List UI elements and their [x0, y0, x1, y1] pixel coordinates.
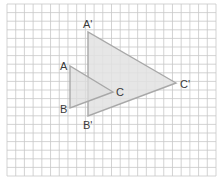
label-c-prime: C' [180, 78, 190, 90]
triangle-a-prime-b-prime-c-prime [88, 32, 176, 116]
label-a: A [60, 60, 68, 72]
label-b-prime: B' [83, 119, 92, 131]
label-a-prime: A' [83, 18, 92, 30]
label-c: C [116, 86, 124, 98]
label-b: B [60, 103, 67, 115]
dilation-diagram: A' A B C B' C' [0, 0, 220, 180]
